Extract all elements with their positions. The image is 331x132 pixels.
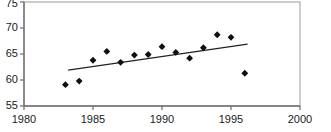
data-point [214, 31, 221, 38]
y-tick-label-65: 65 [0, 47, 18, 59]
plot-frame [24, 2, 300, 106]
y-tick-label-55: 55 [0, 99, 18, 111]
y-tick-label-70: 70 [0, 21, 18, 33]
data-point [117, 59, 124, 66]
data-point [241, 70, 248, 77]
y-tick-label-60: 60 [0, 73, 18, 85]
x-tick-label-1990: 1990 [144, 113, 180, 125]
data-point [145, 51, 152, 58]
y-tick-label-75: 75 [0, 0, 18, 9]
data-point [62, 81, 69, 88]
data-point [186, 55, 193, 62]
x-tick-label-2000: 2000 [282, 113, 318, 125]
data-point [90, 57, 97, 64]
data-point [159, 43, 166, 50]
x-tick-label-1995: 1995 [213, 113, 249, 125]
x-tick-label-1985: 1985 [75, 113, 111, 125]
data-point [131, 52, 138, 59]
chart-figure: 75 70 65 60 55 1980 1985 1990 1995 2000 [0, 0, 331, 132]
data-point [76, 78, 83, 85]
data-point [228, 34, 235, 41]
x-tick-label-1980: 1980 [6, 113, 42, 125]
trend-line [68, 44, 247, 70]
data-point [103, 48, 110, 55]
data-points [62, 31, 248, 88]
